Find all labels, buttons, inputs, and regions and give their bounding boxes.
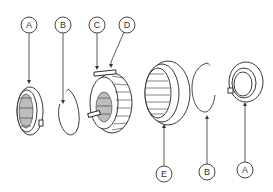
blocker-ring-right (228, 62, 263, 102)
callout-a-bottom: A (237, 162, 253, 178)
svg-text:E: E (161, 169, 167, 179)
callout-d-top: D (119, 17, 135, 33)
blocker-ring-left (17, 87, 43, 135)
exploded-diagram: A B C D E B A (0, 0, 273, 192)
svg-text:B: B (204, 167, 210, 177)
snap-ring-left (59, 89, 80, 135)
callout-a-top: A (21, 17, 37, 33)
callout-e-bottom: E (156, 166, 172, 182)
synchronizer-hub (88, 70, 132, 133)
svg-text:A: A (242, 165, 248, 175)
callout-c-top: C (89, 17, 105, 33)
svg-text:D: D (124, 20, 131, 30)
callout-b-top: B (55, 17, 71, 33)
svg-text:C: C (94, 20, 101, 30)
callouts: A B C D E B A (21, 17, 253, 182)
callout-b-bottom: B (199, 164, 215, 180)
sleeve (145, 61, 190, 125)
svg-text:B: B (60, 20, 66, 30)
snap-ring-right (192, 63, 215, 112)
svg-text:A: A (26, 20, 32, 30)
